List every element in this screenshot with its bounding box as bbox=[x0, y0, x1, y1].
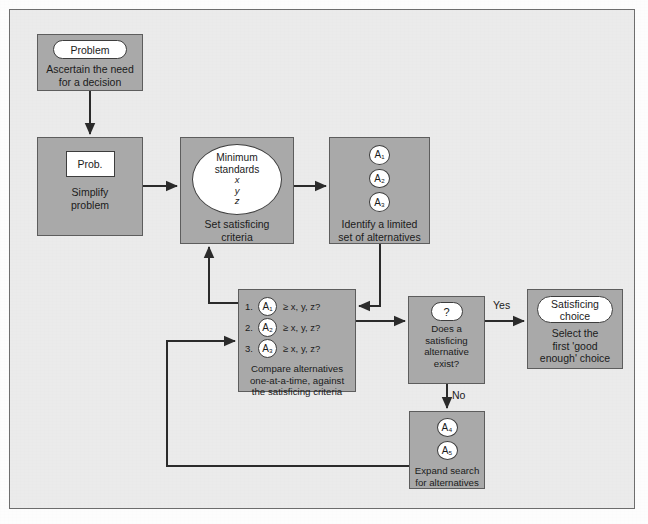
compare-row-2-circle: A₂ bbox=[258, 318, 277, 337]
node-caption-simplify-problem: Simplify problem bbox=[38, 186, 142, 211]
standard-variable-z: z bbox=[235, 196, 240, 207]
compare-row-3-number: 3. bbox=[245, 343, 258, 354]
compare-row-2: 2. A₂ ≥ x, y, z? bbox=[245, 318, 349, 337]
alternative-circle-a2: A₂ bbox=[369, 169, 390, 189]
node-identify-alternatives[interactable]: A₁ A₂ A₃ Identify a limited set of alter… bbox=[329, 137, 430, 244]
alternative-circle-a3: A₃ bbox=[369, 192, 390, 212]
compare-row-3-condition: ≥ x, y, z? bbox=[283, 343, 320, 354]
node-set-satisficing-criteria[interactable]: Minimum standards x y z Set satisficing … bbox=[180, 137, 294, 244]
node-caption-satisficing-choice: Select the first 'good enough' choice bbox=[528, 327, 622, 365]
minimum-standards-ellipse: Minimum standards x y z bbox=[192, 144, 282, 215]
node-caption-set-satisficing-criteria: Set satisficing criteria bbox=[181, 218, 293, 243]
terminator-satisficing-choice: Satisficing choice bbox=[537, 296, 613, 323]
compare-row-3-circle: A₃ bbox=[258, 339, 277, 358]
node-caption-expand-search: Expand search for alternatives bbox=[410, 465, 484, 488]
node-caption-identify-alternatives: Identify a limited set of alternatives bbox=[330, 218, 429, 243]
compare-row-1-number: 1. bbox=[245, 301, 258, 312]
compare-row-1-condition: ≥ x, y, z? bbox=[283, 301, 320, 312]
edge-label-yes: Yes bbox=[493, 299, 510, 311]
edge-alternatives-to-compare bbox=[359, 244, 380, 306]
node-expand-search[interactable]: A₄ A₅ Expand search for alternatives bbox=[409, 411, 485, 489]
node-ascertain-need[interactable]: Problem Ascertain the need for a decisio… bbox=[37, 34, 143, 91]
minimum-standards-title: Minimum standards bbox=[193, 152, 281, 175]
question-mark-badge: ? bbox=[431, 302, 463, 321]
compare-row-1: 1. A₁ ≥ x, y, z? bbox=[245, 297, 349, 316]
node-simplify-problem[interactable]: Prob. Simplify problem bbox=[37, 137, 143, 236]
alternative-circle-a5: A₅ bbox=[437, 441, 458, 460]
node-compare-alternatives[interactable]: 1. A₁ ≥ x, y, z? 2. A₂ ≥ x, y, z? 3. A₃ … bbox=[238, 289, 356, 392]
node-caption-compare-alternatives: Compare alternatives one-at-a-time, agai… bbox=[239, 363, 355, 398]
terminator-problem: Problem bbox=[53, 40, 127, 59]
alternative-circle-a1: A₁ bbox=[369, 145, 390, 165]
compare-row-2-number: 2. bbox=[245, 322, 258, 333]
node-caption-ascertain-need: Ascertain the need for a decision bbox=[38, 63, 142, 88]
compare-row-2-condition: ≥ x, y, z? bbox=[283, 322, 320, 333]
inner-label-prob: Prob. bbox=[66, 151, 115, 177]
flowchart-figure: Problem Ascertain the need for a decisio… bbox=[0, 0, 648, 524]
node-decision-satisficing-exists[interactable]: ? Does a satisficing alternative exist? bbox=[408, 296, 485, 384]
node-satisficing-choice[interactable]: Satisficing choice Select the first 'goo… bbox=[527, 289, 623, 369]
alternative-circle-a4: A₄ bbox=[437, 418, 458, 437]
edge-label-no: No bbox=[452, 389, 465, 401]
node-caption-decision: Does a satisficing alternative exist? bbox=[409, 323, 484, 369]
compare-row-1-circle: A₁ bbox=[258, 297, 277, 316]
edge-compare-to-criteria bbox=[209, 247, 238, 303]
compare-row-3: 3. A₃ ≥ x, y, z? bbox=[245, 339, 349, 358]
